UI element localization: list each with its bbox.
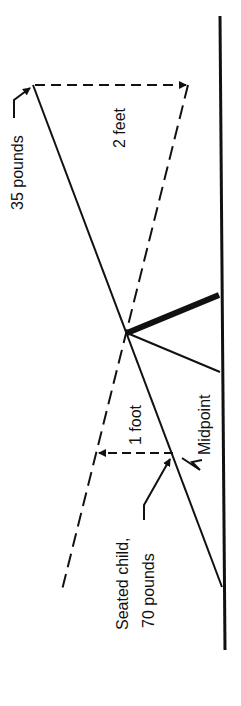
label-child-line2: 70 pounds bbox=[140, 553, 157, 628]
seesaw-board bbox=[33, 85, 222, 587]
label-child-line1: Seated child, bbox=[114, 537, 131, 630]
label-2-feet: 2 feet bbox=[111, 107, 128, 148]
support-leg-thick bbox=[127, 295, 219, 333]
label-midpoint: Midpoint bbox=[196, 394, 213, 455]
diagram-svg: 35 pounds 2 feet 1 foot Midpoint Seated … bbox=[0, 0, 241, 706]
label-35-pounds: 35 pounds bbox=[9, 135, 26, 210]
child-pointer bbox=[144, 459, 170, 520]
midpoint-pointer bbox=[182, 458, 202, 470]
support-leg-thin bbox=[127, 333, 220, 372]
label-1-foot: 1 foot bbox=[127, 404, 144, 445]
weight-pointer-35 bbox=[14, 88, 30, 118]
seesaw-board-dashed bbox=[62, 85, 188, 590]
seesaw-diagram: 35 pounds 2 feet 1 foot Midpoint Seated … bbox=[0, 0, 241, 706]
ground-line bbox=[220, 16, 225, 650]
